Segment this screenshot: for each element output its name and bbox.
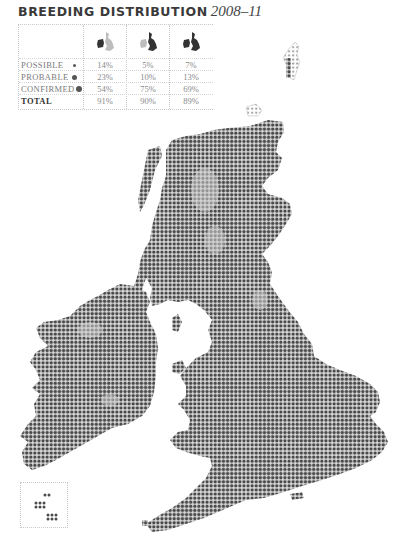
- distribution-map: [0, 0, 394, 549]
- shetland-islands: [283, 42, 300, 80]
- isle-of-wight: [290, 492, 304, 500]
- channel-islands-inset: [20, 482, 68, 528]
- isle-of-man: [172, 314, 182, 332]
- outer-hebrides: [138, 146, 162, 212]
- ireland: [20, 284, 158, 470]
- isles-of-scilly: [142, 520, 148, 526]
- orkney-islands: [246, 104, 262, 116]
